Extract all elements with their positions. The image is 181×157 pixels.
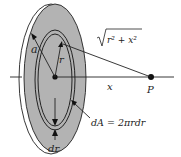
disk-diagram: a r x P dr r² + x² dA = 2πrdr bbox=[0, 0, 181, 157]
label-a: a bbox=[31, 43, 38, 56]
label-p: P bbox=[146, 84, 154, 95]
label-area-element: dA = 2πrdr bbox=[91, 117, 147, 128]
label-dr: dr bbox=[48, 143, 60, 154]
label-distance: r² + x² bbox=[107, 35, 137, 45]
label-x: x bbox=[107, 81, 113, 92]
